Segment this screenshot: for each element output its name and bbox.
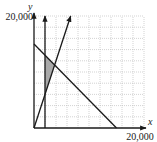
y-max-tick-label: 20,000: [6, 11, 34, 22]
chart: y x 20,000 20,000: [0, 0, 157, 142]
x-max-tick-label: 20,000: [126, 131, 154, 142]
constraint-line-2: [34, 16, 71, 128]
x-axis-label: x: [147, 116, 153, 127]
